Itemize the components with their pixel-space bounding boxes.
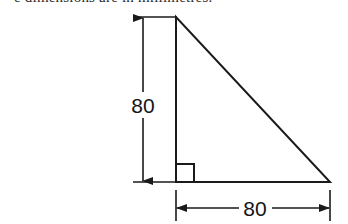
vertical-dimension-label: 80	[131, 94, 154, 117]
triangle-diagram: 80 80	[0, 0, 348, 224]
figure-container: e dimensions are in millimetres.	[0, 0, 348, 224]
horizontal-dimension-label: 80	[243, 197, 266, 220]
right-angle-marker	[176, 164, 194, 182]
triangle-outline	[176, 17, 330, 182]
